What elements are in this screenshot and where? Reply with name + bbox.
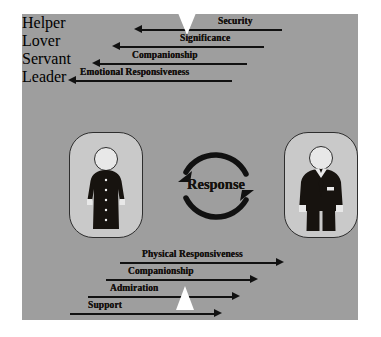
response-cycle: Response — [168, 138, 264, 234]
flow-row-significance: Significance — [112, 35, 264, 51]
man-in-suit-icon — [285, 133, 357, 237]
arrow-head-right-icon — [232, 292, 240, 300]
flow-line — [88, 296, 232, 298]
flow-line — [100, 63, 247, 65]
response-label: Response — [168, 176, 264, 193]
flow-label-security: Security — [218, 16, 253, 26]
woman-in-dress-icon — [70, 133, 142, 237]
flow-line — [120, 46, 264, 48]
flow-label-emotional-responsiveness: Emotional Responsiveness — [80, 67, 189, 77]
flow-line — [70, 313, 214, 315]
flow-line — [142, 29, 282, 31]
flow-line — [76, 80, 232, 82]
flow-label-companionship-bottom: Companionship — [128, 266, 194, 276]
flow-label-support: Support — [88, 300, 122, 310]
role-right-line1: Servant — [22, 50, 102, 68]
arrow-head-left-icon — [68, 76, 76, 84]
arrow-head-left-icon — [112, 42, 120, 50]
flow-line — [106, 279, 250, 281]
arrow-head-right-icon — [214, 309, 222, 317]
flow-label-physical-responsiveness: Physical Responsiveness — [142, 249, 243, 259]
role-label-helper-lover: Helper Lover — [22, 14, 102, 50]
flow-row-security: Security — [134, 18, 282, 34]
flow-line — [120, 262, 276, 264]
flow-row-support: Support — [70, 302, 222, 318]
flow-row-companionship-top: Companionship — [92, 52, 247, 68]
arrow-head-left-icon — [92, 59, 100, 67]
diagram-panel: Security Significance Companionship Emot… — [22, 14, 358, 320]
role-left-line1: Helper — [22, 14, 102, 32]
figure-card-helper-lover — [69, 132, 143, 238]
role-left-line2: Lover — [22, 32, 102, 50]
flow-label-admiration: Admiration — [110, 283, 159, 293]
figure-card-servant-leader — [284, 132, 358, 238]
notch-wedge-bottom — [176, 286, 194, 310]
diagram-canvas: Security Significance Companionship Emot… — [0, 0, 381, 337]
arrow-head-right-icon — [276, 258, 284, 266]
notch-wedge-top — [178, 13, 196, 35]
flow-row-emotional-responsiveness: Emotional Responsiveness — [68, 69, 232, 85]
flow-row-companionship-bottom: Companionship — [106, 268, 258, 284]
arrow-head-right-icon — [250, 275, 258, 283]
flow-label-companionship-top: Companionship — [132, 50, 198, 60]
arrow-head-left-icon — [134, 25, 142, 33]
flow-row-physical-responsiveness: Physical Responsiveness — [120, 251, 284, 267]
flow-row-admiration: Admiration — [88, 285, 240, 301]
